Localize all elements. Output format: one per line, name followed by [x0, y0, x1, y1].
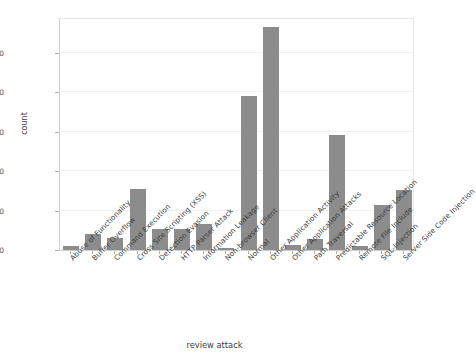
y-axis-label: count — [20, 94, 29, 154]
x-axis-label: review attack — [0, 340, 429, 350]
y-axis-tick-label: 20000 — [0, 89, 4, 97]
y-axis-tick-label: 15000 — [0, 129, 4, 137]
y-axis-tick-label: 10000 — [0, 168, 4, 176]
y-axis-tick-label: 0 — [0, 247, 4, 255]
y-axis-tick-label: 25000 — [0, 50, 4, 58]
y-axis-tick-label: 5000 — [0, 208, 4, 216]
